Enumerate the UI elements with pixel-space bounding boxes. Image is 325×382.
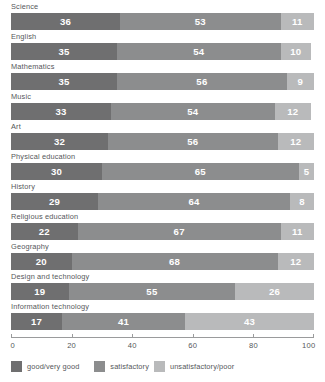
x-axis-tick xyxy=(193,334,194,338)
bar-segment-value: 35 xyxy=(58,43,69,60)
bar-segment: 17 xyxy=(11,313,62,330)
chart-row: Design and technology195526 xyxy=(0,272,325,302)
bar-segment: 11 xyxy=(281,223,314,240)
row-label: Physical education xyxy=(0,152,325,163)
bar-segment-value: 36 xyxy=(60,13,71,30)
bar-segment-value: 8 xyxy=(299,193,305,210)
stacked-bar: 335412 xyxy=(11,103,314,120)
x-axis-tick-label: 80 xyxy=(249,341,258,350)
bar-segment-value: 67 xyxy=(174,223,185,240)
bar-segment: 64 xyxy=(98,193,290,210)
bar-segment: 54 xyxy=(111,103,275,120)
bar-segment-value: 33 xyxy=(55,103,66,120)
row-label: History xyxy=(0,182,325,193)
bar-segment-value: 35 xyxy=(58,73,69,90)
bar-segment: 55 xyxy=(69,283,236,300)
bar-segment-value: 54 xyxy=(193,43,204,60)
stacked-bar: 226711 xyxy=(11,223,314,240)
x-axis-tick xyxy=(132,334,133,338)
x-axis-tick-label: 60 xyxy=(188,341,197,350)
chart-row: Art325612 xyxy=(0,122,325,152)
x-axis-tick xyxy=(253,334,254,338)
row-label: English xyxy=(0,32,325,43)
bar-segment-value: 11 xyxy=(292,13,303,30)
bar-segment: 67 xyxy=(78,223,281,240)
bar-segment: 10 xyxy=(281,43,311,60)
bar-segment: 43 xyxy=(185,313,314,330)
bar-segment: 19 xyxy=(11,283,69,300)
legend-item[interactable]: unsatisfactory/poor xyxy=(154,361,234,372)
stacked-bar: 30655 xyxy=(11,163,314,180)
bar-segment: 56 xyxy=(117,73,287,90)
bar-segment-value: 54 xyxy=(187,103,198,120)
bar-segment: 29 xyxy=(11,193,98,210)
bar-segment-value: 20 xyxy=(36,253,47,270)
legend-swatch xyxy=(94,361,105,372)
bar-segment: 12 xyxy=(278,133,314,150)
bar-segment: 32 xyxy=(11,133,108,150)
bar-segment-value: 10 xyxy=(290,43,301,60)
bar-segment-value: 5 xyxy=(304,163,310,180)
bar-segment: 26 xyxy=(235,283,314,300)
bar-segment: 5 xyxy=(299,163,314,180)
bar-segment-value: 29 xyxy=(49,193,60,210)
row-label: Science xyxy=(0,2,325,13)
x-axis-tick xyxy=(72,334,73,338)
stacked-bar: 174143 xyxy=(11,313,314,330)
x-axis-tick-label: 20 xyxy=(67,341,76,350)
row-label: Mathematics xyxy=(0,62,325,73)
bar-segment: 9 xyxy=(287,73,314,90)
legend-swatch xyxy=(11,361,22,372)
bar-segment: 41 xyxy=(62,313,185,330)
bar-segment-value: 26 xyxy=(269,283,280,300)
x-axis-tick xyxy=(313,334,314,338)
row-label: Religious education xyxy=(0,212,325,223)
bar-segment-value: 22 xyxy=(39,223,50,240)
stacked-bar-chart: Science365311English355410Mathematics355… xyxy=(0,0,325,382)
chart-row: Music335412 xyxy=(0,92,325,122)
bar-segment: 68 xyxy=(72,253,278,270)
stacked-bar: 195526 xyxy=(11,283,314,300)
bar-segment: 12 xyxy=(275,103,311,120)
x-axis-tick-label: 100 xyxy=(302,341,315,350)
legend-label: satisfactory xyxy=(110,362,149,371)
chart-row: Physical education30655 xyxy=(0,152,325,182)
bar-segment: 65 xyxy=(102,163,299,180)
x-axis-tick-label: 40 xyxy=(128,341,137,350)
chart-legend: good/very goodsatisfactoryunsatisfactory… xyxy=(11,361,234,372)
chart-row: Science365311 xyxy=(0,2,325,32)
bar-segment: 11 xyxy=(281,13,314,30)
legend-item[interactable]: good/very good xyxy=(11,361,79,372)
legend-item[interactable]: satisfactory xyxy=(94,361,149,372)
bar-segment: 54 xyxy=(117,43,281,60)
legend-swatch xyxy=(154,361,165,372)
x-axis-line xyxy=(11,337,314,338)
bar-segment-value: 12 xyxy=(290,253,301,270)
stacked-bar: 206812 xyxy=(11,253,314,270)
row-label: Design and technology xyxy=(0,272,325,283)
bar-segment-value: 41 xyxy=(118,313,129,330)
chart-rows: Science365311English355410Mathematics355… xyxy=(0,2,325,332)
legend-label: unsatisfactory/poor xyxy=(170,362,234,371)
x-axis-tick-label: 0 xyxy=(11,341,15,350)
bar-segment: 20 xyxy=(11,253,72,270)
bar-segment-value: 12 xyxy=(290,133,301,150)
stacked-bar: 35569 xyxy=(11,73,314,90)
row-label: Geography xyxy=(0,242,325,253)
bar-segment-value: 43 xyxy=(244,313,255,330)
bar-segment: 53 xyxy=(120,13,281,30)
bar-segment: 12 xyxy=(278,253,314,270)
bar-segment-value: 17 xyxy=(31,313,42,330)
bar-segment-value: 9 xyxy=(298,73,304,90)
bar-segment: 36 xyxy=(11,13,120,30)
bar-segment: 56 xyxy=(108,133,278,150)
chart-row: Mathematics35569 xyxy=(0,62,325,92)
bar-segment-value: 32 xyxy=(54,133,65,150)
stacked-bar: 325612 xyxy=(11,133,314,150)
stacked-bar: 355410 xyxy=(11,43,314,60)
bar-segment-value: 65 xyxy=(195,163,206,180)
x-axis-tick xyxy=(11,334,12,338)
row-label: Information technology xyxy=(0,302,325,313)
chart-row: Information technology174143 xyxy=(0,302,325,332)
bar-segment-value: 12 xyxy=(287,103,298,120)
